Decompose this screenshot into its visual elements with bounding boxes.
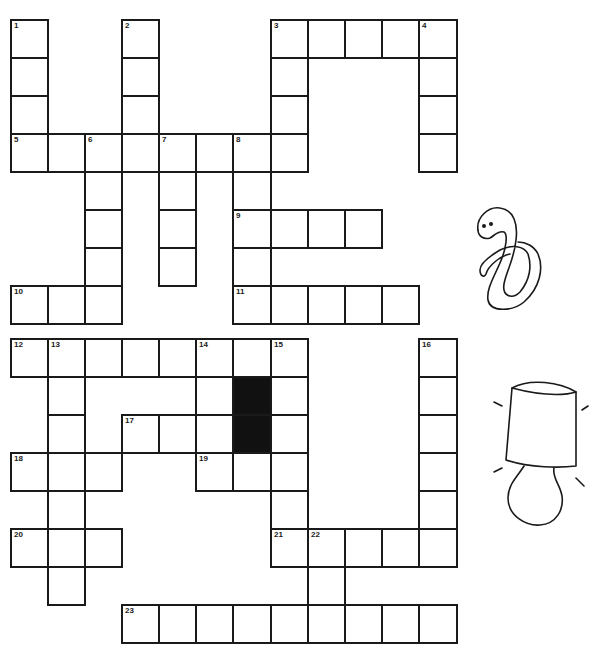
crossword-cell[interactable] bbox=[121, 133, 160, 173]
cell-input[interactable] bbox=[160, 249, 195, 285]
cell-input[interactable] bbox=[123, 606, 158, 642]
crossword-cell[interactable]: 6 bbox=[84, 133, 123, 173]
crossword-cell[interactable] bbox=[270, 414, 309, 454]
crossword-cell[interactable] bbox=[381, 285, 420, 325]
cell-input[interactable] bbox=[234, 454, 270, 490]
cell-input[interactable] bbox=[272, 97, 307, 133]
cell-input[interactable] bbox=[420, 135, 456, 171]
cell-input[interactable] bbox=[234, 249, 270, 285]
cell-input[interactable] bbox=[86, 135, 121, 171]
cell-input[interactable] bbox=[420, 606, 456, 642]
cell-input[interactable] bbox=[383, 21, 418, 57]
cell-input[interactable] bbox=[123, 21, 158, 57]
cell-input[interactable] bbox=[346, 211, 381, 247]
cell-input[interactable] bbox=[86, 340, 121, 376]
crossword-cell[interactable] bbox=[47, 490, 86, 530]
crossword-cell[interactable] bbox=[158, 247, 197, 287]
crossword-cell[interactable] bbox=[270, 604, 309, 644]
cell-input[interactable] bbox=[160, 211, 195, 247]
crossword-cell[interactable] bbox=[10, 95, 49, 135]
crossword-cell[interactable]: 9 bbox=[232, 209, 272, 249]
crossword-cell[interactable] bbox=[84, 528, 123, 568]
crossword-cell[interactable] bbox=[418, 528, 458, 568]
crossword-cell[interactable] bbox=[270, 95, 309, 135]
cell-input[interactable] bbox=[12, 340, 47, 376]
cell-input[interactable] bbox=[309, 21, 344, 57]
cell-input[interactable] bbox=[309, 211, 344, 247]
crossword-cell[interactable]: 23 bbox=[121, 604, 160, 644]
cell-input[interactable] bbox=[160, 135, 195, 171]
crossword-cell[interactable] bbox=[47, 376, 86, 416]
cell-input[interactable] bbox=[160, 416, 195, 452]
cell-input[interactable] bbox=[346, 21, 381, 57]
crossword-cell[interactable]: 15 bbox=[270, 338, 309, 378]
crossword-cell[interactable] bbox=[418, 376, 458, 416]
crossword-cell[interactable] bbox=[270, 57, 309, 97]
cell-input[interactable] bbox=[309, 568, 344, 604]
crossword-cell[interactable]: 13 bbox=[47, 338, 86, 378]
crossword-cell[interactable] bbox=[344, 604, 383, 644]
cell-input[interactable] bbox=[49, 530, 84, 566]
cell-input[interactable] bbox=[383, 530, 418, 566]
cell-input[interactable] bbox=[49, 287, 84, 323]
cell-input[interactable] bbox=[420, 492, 456, 528]
crossword-cell[interactable] bbox=[121, 57, 160, 97]
cell-input[interactable] bbox=[420, 530, 456, 566]
cell-input[interactable] bbox=[49, 492, 84, 528]
crossword-cell[interactable]: 8 bbox=[232, 133, 272, 173]
cell-input[interactable] bbox=[123, 59, 158, 95]
cell-input[interactable] bbox=[86, 454, 121, 490]
crossword-cell[interactable]: 7 bbox=[158, 133, 197, 173]
cell-input[interactable] bbox=[123, 340, 158, 376]
crossword-cell[interactable] bbox=[270, 452, 309, 492]
cell-input[interactable] bbox=[123, 97, 158, 133]
crossword-cell[interactable] bbox=[10, 57, 49, 97]
crossword-cell[interactable]: 14 bbox=[195, 338, 234, 378]
cell-input[interactable] bbox=[86, 173, 121, 209]
cell-input[interactable] bbox=[49, 135, 84, 171]
crossword-cell[interactable] bbox=[344, 209, 383, 249]
cell-input[interactable] bbox=[383, 606, 418, 642]
crossword-cell[interactable] bbox=[381, 528, 420, 568]
cell-input[interactable] bbox=[309, 287, 344, 323]
cell-input[interactable] bbox=[346, 287, 381, 323]
cell-input[interactable] bbox=[234, 173, 270, 209]
cell-input[interactable] bbox=[123, 135, 158, 171]
crossword-cell[interactable] bbox=[232, 247, 272, 287]
cell-input[interactable] bbox=[12, 21, 47, 57]
cell-input[interactable] bbox=[272, 416, 307, 452]
cell-input[interactable] bbox=[197, 340, 232, 376]
crossword-cell[interactable] bbox=[307, 209, 346, 249]
cell-input[interactable] bbox=[420, 340, 456, 376]
crossword-cell[interactable] bbox=[270, 490, 309, 530]
crossword-cell[interactable]: 19 bbox=[195, 452, 234, 492]
crossword-cell[interactable] bbox=[84, 209, 123, 249]
cell-input[interactable] bbox=[160, 173, 195, 209]
crossword-cell[interactable] bbox=[158, 338, 197, 378]
crossword-cell[interactable] bbox=[158, 209, 197, 249]
cell-input[interactable] bbox=[86, 211, 121, 247]
cell-input[interactable] bbox=[197, 135, 232, 171]
crossword-cell[interactable] bbox=[418, 133, 458, 173]
crossword-cell[interactable] bbox=[47, 285, 86, 325]
cell-input[interactable] bbox=[49, 454, 84, 490]
cell-input[interactable] bbox=[12, 287, 47, 323]
cell-input[interactable] bbox=[420, 21, 456, 57]
cell-input[interactable] bbox=[383, 287, 418, 323]
crossword-cell[interactable] bbox=[195, 133, 234, 173]
cell-input[interactable] bbox=[160, 340, 195, 376]
crossword-cell[interactable] bbox=[84, 247, 123, 287]
cell-input[interactable] bbox=[420, 454, 456, 490]
cell-input[interactable] bbox=[197, 606, 232, 642]
crossword-cell[interactable] bbox=[418, 604, 458, 644]
crossword-cell[interactable] bbox=[418, 414, 458, 454]
cell-input[interactable] bbox=[272, 454, 307, 490]
crossword-cell[interactable] bbox=[121, 95, 160, 135]
crossword-cell[interactable] bbox=[47, 414, 86, 454]
cell-input[interactable] bbox=[234, 340, 270, 376]
cell-input[interactable] bbox=[49, 340, 84, 376]
crossword-cell[interactable] bbox=[418, 57, 458, 97]
cell-input[interactable] bbox=[123, 416, 158, 452]
cell-input[interactable] bbox=[420, 97, 456, 133]
cell-input[interactable] bbox=[234, 606, 270, 642]
